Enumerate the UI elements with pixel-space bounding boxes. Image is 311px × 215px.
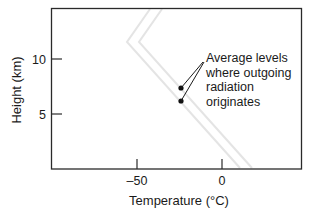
plot-frame [52,9,302,170]
chart: 10 5 –50 0 Temperature (°C) Height (km) … [0,0,311,215]
annotation-line-1: Average levels [206,51,288,65]
annotation-pointer-lower [181,62,204,101]
annotation-line-2: where outgoing [205,66,292,80]
x-axis-label: Temperature (°C) [129,193,229,208]
annotation-pointer-upper [181,62,203,88]
annotation-line-4: originates [206,95,260,109]
y-axis-label: Height (km) [9,56,24,123]
y-tick-label-5: 5 [39,108,46,122]
annotation-line-3: radiation [206,80,254,94]
x-tick-label-0: 0 [219,174,226,188]
x-tick-label-m50: –50 [127,174,148,188]
y-tick-label-10: 10 [32,53,46,67]
